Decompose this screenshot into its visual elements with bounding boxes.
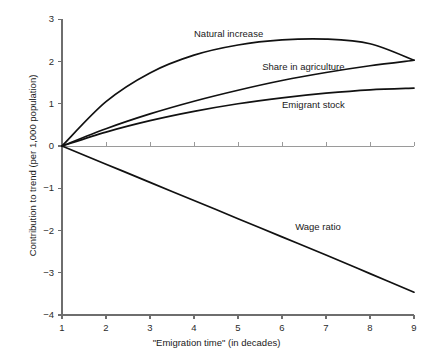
- x-tick-label: 2: [92, 323, 120, 333]
- series-label-share-in-agriculture: Share in agriculture: [262, 62, 344, 72]
- x-tick-label: 6: [268, 323, 296, 333]
- zero-reference-line: [62, 142, 414, 146]
- y-tick-label: −4: [28, 310, 54, 320]
- x-tick-label: 1: [48, 323, 76, 333]
- chart-figure: 3210−1−2−3−4 123456789 Natural increaseS…: [0, 0, 433, 361]
- series-curve-2: [62, 88, 414, 146]
- x-axis-title: "Emigration time" (in decades): [0, 337, 433, 348]
- series-label-wage-ratio: Wage ratio: [295, 222, 341, 232]
- y-tick-label: 3: [28, 14, 54, 24]
- axes: [58, 19, 414, 319]
- x-tick-label: 9: [400, 323, 428, 333]
- series-curve-3: [62, 146, 414, 292]
- x-tick-label: 8: [356, 323, 384, 333]
- y-axis-title: Contribution to trend (per 1,000 populat…: [27, 56, 38, 276]
- x-tick-label: 4: [180, 323, 208, 333]
- series-label-natural-increase: Natural increase: [194, 29, 263, 39]
- series-curves: [62, 39, 414, 292]
- x-tick-label: 3: [136, 323, 164, 333]
- plot-area: [0, 0, 433, 361]
- x-tick-label: 5: [224, 323, 252, 333]
- series-label-emigrant-stock: Emigrant stock: [282, 100, 345, 110]
- x-tick-label: 7: [312, 323, 340, 333]
